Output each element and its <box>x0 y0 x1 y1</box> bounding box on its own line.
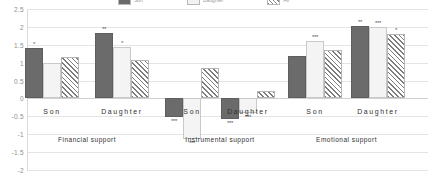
legend-label: All <box>283 0 289 3</box>
bar <box>113 47 131 98</box>
category-label: Daughter <box>227 108 269 115</box>
plot-area: 2.521.510.50-0.5-1-1.5-2*Son***Daughter*… <box>27 9 428 170</box>
bar <box>43 63 61 99</box>
legend-swatch-icon <box>267 0 280 5</box>
bar <box>61 57 79 98</box>
legend-item-0: Son <box>118 0 143 5</box>
y-axis-tick-label: 1.5 <box>14 41 24 48</box>
significance-marker: *** <box>375 20 381 26</box>
bar <box>25 48 43 98</box>
y-axis-tick-label: 2.5 <box>14 6 24 13</box>
bar <box>131 60 149 99</box>
bar-chart: SonDaughterAll 2.521.510.50-0.5-1-1.5-2*… <box>0 0 434 188</box>
category-label: Son <box>183 108 200 115</box>
significance-marker: ** <box>358 19 362 25</box>
legend-label: Daughter <box>203 0 224 3</box>
bar <box>288 56 306 99</box>
y-axis-tick-label: -1.5 <box>12 149 24 156</box>
gridline <box>27 9 428 10</box>
significance-marker: ** <box>102 26 106 32</box>
bar <box>183 98 201 138</box>
y-axis-tick-label: -2 <box>18 167 24 174</box>
y-axis-tick-label: 2 <box>20 23 24 30</box>
bar <box>324 50 342 98</box>
legend-swatch-icon <box>187 0 200 5</box>
gridline <box>27 134 428 135</box>
group-label: Instrumental support <box>185 136 254 143</box>
y-axis-tick-label: 0.5 <box>14 77 24 84</box>
chart-legend: SonDaughterAll <box>0 0 434 7</box>
bar <box>165 98 183 117</box>
y-axis-tick-label: 0 <box>20 95 24 102</box>
bar <box>201 68 219 98</box>
significance-marker: * <box>395 27 397 33</box>
y-axis-tick-label: -1 <box>18 131 24 138</box>
group-label: Financial support <box>58 136 116 143</box>
legend-label: Son <box>134 0 143 3</box>
significance-marker: * <box>121 40 123 46</box>
category-label: Daughter <box>101 108 143 115</box>
bar <box>351 26 369 98</box>
legend-item-2: All <box>267 0 289 5</box>
bar <box>257 91 275 98</box>
gridline <box>27 152 428 153</box>
gridline <box>27 170 428 171</box>
bar <box>95 33 113 98</box>
group-label: Emotional support <box>316 136 377 143</box>
bar <box>306 41 324 98</box>
category-label: Daughter <box>357 108 399 115</box>
significance-marker: *** <box>171 118 177 124</box>
legend-swatch-icon <box>118 0 131 5</box>
category-label: Son <box>306 108 323 115</box>
significance-marker: *** <box>312 34 318 40</box>
significance-marker: *** <box>227 120 233 126</box>
category-label: Son <box>43 108 60 115</box>
significance-marker: * <box>33 41 35 47</box>
legend-item-1: Daughter <box>187 0 224 5</box>
y-axis-tick-label: -0.5 <box>12 113 24 120</box>
y-axis-tick-label: 1 <box>20 59 24 66</box>
bar <box>387 34 405 98</box>
bar <box>369 27 387 99</box>
